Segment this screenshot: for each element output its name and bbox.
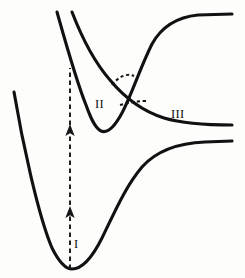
- transition-arrowhead-lower-icon: [65, 206, 74, 218]
- curve-label-I: I: [74, 238, 78, 251]
- curve-I-path: [14, 92, 232, 269]
- curve-label-III: III: [171, 108, 184, 121]
- lower-branch-connector-dash: [120, 101, 146, 105]
- curve-label-II: II: [95, 98, 104, 111]
- potential-energy-diagram: I II III: [0, 0, 245, 278]
- diagram-canvas: [0, 0, 245, 278]
- upper-branch-connector-dash: [112, 75, 134, 85]
- transition-arrowhead-upper-icon: [65, 124, 74, 136]
- curve-II-path: [57, 12, 232, 132]
